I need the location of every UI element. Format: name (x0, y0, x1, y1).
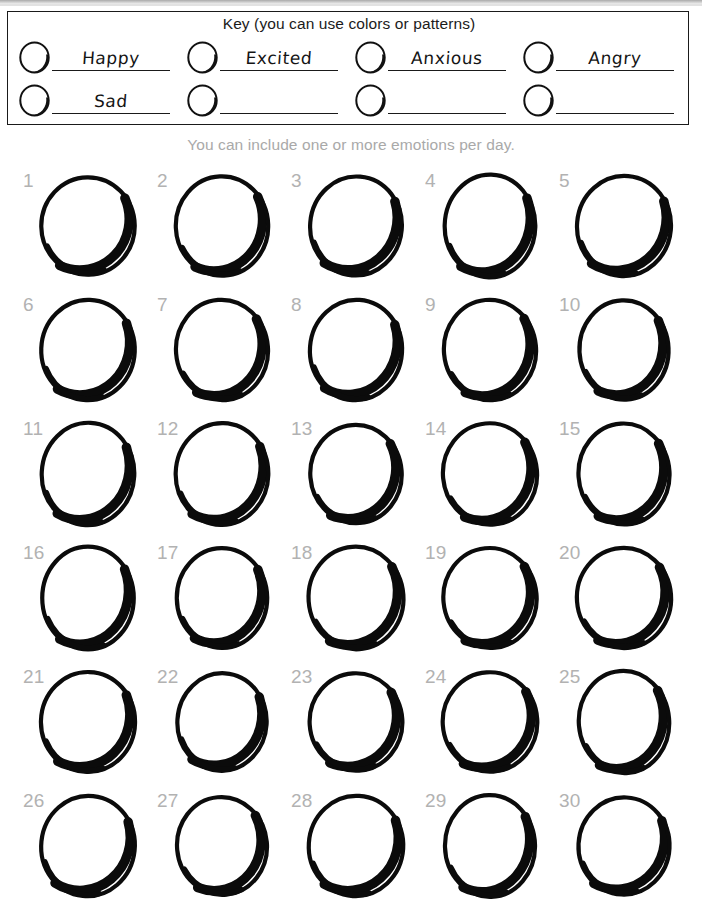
day-circle-icon[interactable] (34, 542, 142, 654)
day-number-label: 25 (559, 666, 581, 688)
day-circle-icon[interactable] (168, 294, 276, 406)
day-circle-icon[interactable] (34, 294, 142, 406)
key-label-blank[interactable]: Excited (220, 40, 338, 74)
day-cell[interactable]: 23 (290, 659, 424, 783)
key-write-in-line (556, 113, 674, 114)
day-cell[interactable]: 5 (558, 163, 692, 287)
key-label-blank[interactable] (220, 83, 338, 117)
day-circle-icon[interactable] (436, 418, 544, 530)
key-row: Sad (12, 79, 686, 122)
key-swatch-circle-icon[interactable] (522, 40, 555, 75)
day-circle-icon[interactable] (436, 666, 544, 778)
day-circle-icon[interactable] (168, 542, 276, 654)
day-cell[interactable]: 9 (424, 287, 558, 411)
day-circle-icon[interactable] (302, 666, 410, 778)
day-cell[interactable]: 30 (558, 783, 692, 903)
day-circle-icon[interactable] (570, 170, 678, 282)
key-entry (516, 79, 684, 122)
day-cell[interactable]: 13 (290, 411, 424, 535)
key-swatch-circle-icon[interactable] (186, 83, 219, 118)
key-swatch-circle-icon[interactable] (18, 40, 51, 75)
key-label-text: Excited (219, 48, 338, 68)
day-circle-icon[interactable] (34, 170, 142, 282)
day-circle-icon[interactable] (302, 418, 410, 530)
day-circle-icon[interactable] (570, 790, 678, 902)
day-cell[interactable]: 3 (290, 163, 424, 287)
key-write-in-line (220, 113, 338, 114)
day-cell[interactable]: 21 (22, 659, 156, 783)
day-number-label: 23 (291, 666, 313, 688)
day-circle-icon[interactable] (436, 542, 544, 654)
day-circle-icon[interactable] (570, 666, 678, 778)
day-cell[interactable]: 7 (156, 287, 290, 411)
day-cell[interactable]: 22 (156, 659, 290, 783)
day-number-label: 5 (559, 170, 570, 192)
key-entry: Sad (12, 79, 180, 122)
day-number-label: 29 (425, 790, 447, 812)
day-cell[interactable]: 29 (424, 783, 558, 903)
day-circle-icon[interactable] (168, 666, 276, 778)
day-circle-icon[interactable] (302, 294, 410, 406)
day-number-label: 18 (291, 542, 313, 564)
day-number-label: 26 (23, 790, 45, 812)
day-circle-icon[interactable] (570, 294, 678, 406)
day-cell[interactable]: 27 (156, 783, 290, 903)
day-circle-icon[interactable] (302, 542, 410, 654)
day-cell[interactable]: 14 (424, 411, 558, 535)
day-number-label: 10 (559, 294, 581, 316)
day-cell[interactable]: 28 (290, 783, 424, 903)
key-entry: Excited (180, 36, 348, 79)
day-circle-icon[interactable] (168, 790, 276, 902)
key-label-blank[interactable]: Angry (556, 40, 674, 74)
key-swatch-circle-icon[interactable] (354, 83, 387, 118)
day-circle-icon[interactable] (34, 666, 142, 778)
day-circle-icon[interactable] (302, 790, 410, 902)
day-circle-icon[interactable] (436, 790, 544, 902)
key-label-blank[interactable]: Sad (52, 83, 170, 117)
day-cell[interactable]: 2 (156, 163, 290, 287)
day-circle-icon[interactable] (302, 170, 410, 282)
day-number-label: 2 (157, 170, 168, 192)
day-circle-icon[interactable] (168, 418, 276, 530)
day-circle-icon[interactable] (570, 418, 678, 530)
day-circle-icon[interactable] (436, 294, 544, 406)
day-cell[interactable]: 24 (424, 659, 558, 783)
key-entry (180, 79, 348, 122)
day-cell[interactable]: 10 (558, 287, 692, 411)
day-cell[interactable]: 16 (22, 535, 156, 659)
day-cell[interactable]: 11 (22, 411, 156, 535)
day-cell[interactable]: 15 (558, 411, 692, 535)
key-label-blank[interactable] (556, 83, 674, 117)
day-cell[interactable]: 17 (156, 535, 290, 659)
day-cell[interactable]: 20 (558, 535, 692, 659)
key-swatch-circle-icon[interactable] (186, 40, 219, 75)
day-cell[interactable]: 1 (22, 163, 156, 287)
key-write-in-line (388, 113, 506, 114)
key-label-text: Happy (51, 48, 170, 68)
day-cell[interactable]: 19 (424, 535, 558, 659)
day-cell[interactable]: 6 (22, 287, 156, 411)
day-circle-icon[interactable] (436, 170, 544, 282)
day-circle-icon[interactable] (570, 542, 678, 654)
key-label-blank[interactable]: Anxious (388, 40, 506, 74)
day-cell[interactable]: 25 (558, 659, 692, 783)
day-cell[interactable]: 18 (290, 535, 424, 659)
key-write-in-line (52, 113, 170, 114)
instruction-subtitle: You can include one or more emotions per… (0, 136, 702, 154)
day-number-label: 22 (157, 666, 179, 688)
day-circle-icon[interactable] (168, 170, 276, 282)
day-number-label: 4 (425, 170, 436, 192)
day-cell[interactable]: 26 (22, 783, 156, 903)
key-label-blank[interactable]: Happy (52, 40, 170, 74)
day-cell[interactable]: 4 (424, 163, 558, 287)
day-cell[interactable]: 12 (156, 411, 290, 535)
key-entry-grid: HappyExcitedAnxiousAngrySad (12, 36, 686, 122)
key-swatch-circle-icon[interactable] (18, 83, 51, 118)
day-cell[interactable]: 8 (290, 287, 424, 411)
key-swatch-circle-icon[interactable] (522, 83, 555, 118)
day-circle-icon[interactable] (34, 418, 142, 530)
day-circle-icon[interactable] (34, 790, 142, 902)
key-swatch-circle-icon[interactable] (354, 40, 387, 75)
day-number-label: 21 (23, 666, 45, 688)
key-label-blank[interactable] (388, 83, 506, 117)
